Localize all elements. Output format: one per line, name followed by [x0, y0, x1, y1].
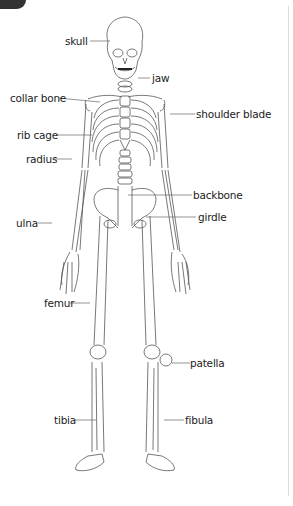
- label-radius: radius: [26, 153, 57, 165]
- right-leg: [142, 216, 174, 471]
- label-jaw: jaw: [152, 72, 169, 84]
- label-fibula: fibula: [185, 414, 213, 426]
- label-rib-cage: rib cage: [17, 129, 58, 141]
- label-patella: patella: [190, 357, 225, 369]
- label-shoulder-blade: shoulder blade: [196, 108, 271, 120]
- neck: [118, 81, 132, 92]
- label-femur: femur: [44, 297, 74, 309]
- label-collar-bone: collar bone: [10, 92, 66, 104]
- label-girdle: girdle: [198, 211, 227, 223]
- left-leg: [76, 216, 108, 471]
- skull-shape: [107, 17, 143, 79]
- label-ulna: ulna: [16, 217, 38, 229]
- right-arm: [158, 104, 190, 294]
- pelvis: [94, 186, 156, 228]
- label-backbone: backbone: [193, 189, 243, 201]
- label-tibia: tibia: [54, 414, 76, 426]
- spine: [118, 96, 132, 184]
- left-arm: [60, 104, 92, 294]
- skeleton-drawing: [0, 0, 293, 506]
- label-skull: skull: [65, 35, 88, 47]
